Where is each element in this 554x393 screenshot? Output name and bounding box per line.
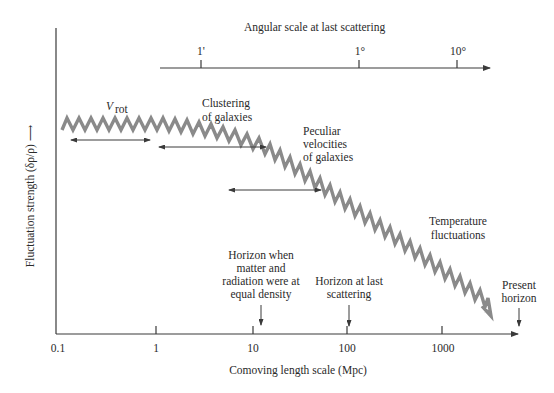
present-horizon-label: Present xyxy=(502,279,537,291)
top-axis-title: Angular scale at last scattering xyxy=(244,21,385,34)
horizon-last-scattering-annotation: Horizon at last scattering xyxy=(315,275,384,326)
vrot-label-sub: rot xyxy=(115,103,129,115)
y-axis: Fluctuation strength (δρ/ρ) ⟶ xyxy=(24,28,56,334)
present-horizon-annotation: Present horizon xyxy=(501,279,536,326)
x-tick-label: 1 xyxy=(153,342,159,354)
temperature-annotation: Temperature fluctuations xyxy=(429,215,487,241)
top-tick-label: 1° xyxy=(355,45,366,57)
horizon-last-label: Horizon at last xyxy=(315,275,384,287)
vrot-label-main: V xyxy=(106,100,115,112)
peculiar-label: velocities xyxy=(303,138,348,150)
temperature-label: fluctuations xyxy=(431,229,486,241)
horizon-last-label: scattering xyxy=(327,288,372,301)
horizon-equality-label: equal density xyxy=(231,288,292,301)
x-axis-title: Comoving length scale (Mpc) xyxy=(229,364,367,377)
x-axis: 0.1 1 10 100 1000 Comoving length scale … xyxy=(51,326,518,377)
peculiar-label: of galaxies xyxy=(303,151,354,164)
horizon-equality-annotation: Horizon when matter and radiation were a… xyxy=(222,249,300,325)
horizon-equality-label: Horizon when xyxy=(228,249,294,261)
y-axis-label: Fluctuation strength (δρ/ρ) ⟶ xyxy=(24,124,37,267)
peculiar-label: Peculiar xyxy=(303,125,341,137)
x-tick-label: 10 xyxy=(247,342,259,354)
present-horizon-label: horizon xyxy=(501,292,536,304)
x-tick-label: 0.1 xyxy=(51,342,66,354)
x-tick-label: 100 xyxy=(338,342,356,354)
clustering-label: Clustering xyxy=(202,97,250,110)
x-tick-label: 1000 xyxy=(432,342,455,354)
top-tick-label: 10° xyxy=(450,45,467,57)
temperature-label: Temperature xyxy=(429,215,487,228)
diagram-canvas: Angular scale at last scattering 1' 1° 1… xyxy=(0,0,554,393)
top-tick-label: 1' xyxy=(197,45,205,57)
horizon-equality-label: matter and xyxy=(237,262,286,274)
clustering-label: of galaxies xyxy=(202,111,253,124)
top-angular-axis: Angular scale at last scattering 1' 1° 1… xyxy=(160,21,490,68)
horizon-equality-label: radiation were at xyxy=(222,275,300,287)
